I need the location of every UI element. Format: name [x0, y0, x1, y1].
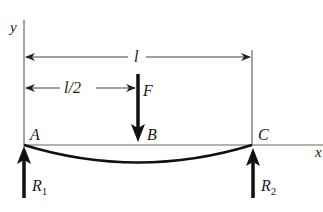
reaction-r2-subscript: 2 — [271, 185, 277, 197]
beam-diagram: y x l l/2 F A B C R1 R2 — [0, 0, 323, 212]
reaction-r1-subscript: 1 — [42, 185, 48, 197]
reaction-r1-symbol: R — [31, 177, 42, 194]
y-axis-label: y — [8, 19, 17, 35]
point-a-label: A — [29, 126, 40, 143]
reaction-r1-label: R1 — [31, 177, 47, 197]
reaction-r2-label: R2 — [260, 177, 276, 197]
reaction-r2-symbol: R — [260, 177, 271, 194]
point-c-label: C — [258, 126, 269, 143]
point-b-label: B — [147, 126, 157, 143]
span-label: l — [134, 48, 139, 65]
half-span-label: l/2 — [64, 79, 81, 96]
load-label: F — [142, 82, 153, 99]
deflected-beam-curve — [24, 145, 252, 163]
x-axis-label: x — [314, 144, 322, 160]
